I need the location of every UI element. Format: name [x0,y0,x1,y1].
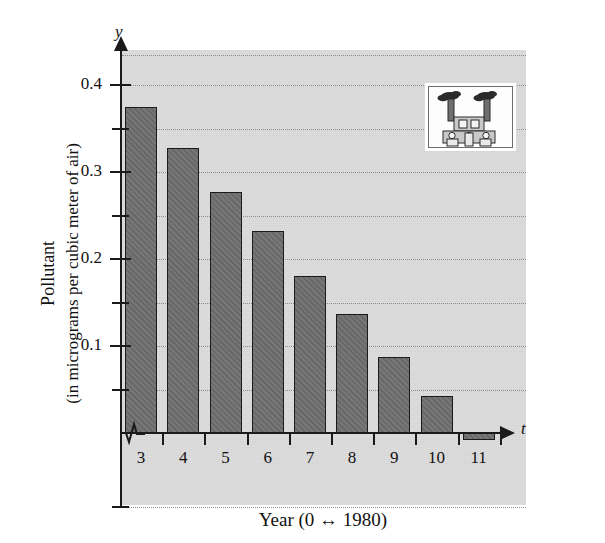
bar [125,107,157,433]
chart-figure: y t 0.10.20.30.4 34567891011 Pollutant (… [0,0,605,543]
x-tick-label: 3 [121,448,161,468]
y-tick-minor [112,215,129,217]
x-tick-label: 7 [290,448,330,468]
bar [252,231,284,433]
x-axis-line [120,432,502,434]
bar [421,396,453,433]
gridline [122,507,526,508]
y-tick-minor [112,302,129,304]
x-tick [415,434,417,445]
x-axis-title: Year (0 ↔ 1980) [120,509,526,531]
x-tick [247,434,249,445]
y-tick-major [110,171,131,173]
y-axis-variable-label: y [115,22,123,42]
x-axis-arrowhead [500,426,515,440]
x-tick [373,434,375,445]
bar [463,433,495,440]
y-axis-title-line1: Pollutant [35,58,61,488]
y-tick-minor [112,506,129,508]
x-tick [204,434,206,445]
y-tick-major [110,258,131,260]
t-axis-variable-label: t [521,419,526,439]
x-tick [500,434,502,445]
bar [378,357,410,433]
x-tick [289,434,291,445]
bar [294,276,326,433]
x-tick-label: 8 [332,448,372,468]
bar [210,192,242,433]
y-axis-title-line2: (in micrograms per cubic meter of air) [61,58,86,488]
axis-break-zigzag [120,420,146,448]
y-axis-title: Pollutant (in micrograms per cubic meter… [35,58,86,488]
x-tick-label: 11 [459,448,499,468]
gridline [122,55,526,56]
x-tick-label: 4 [163,448,203,468]
x-tick-label: 10 [417,448,457,468]
x-tick-label: 5 [206,448,246,468]
y-tick-major [110,345,131,347]
x-tick-label: 6 [248,448,288,468]
factory-icon [429,87,512,147]
y-tick-minor [112,128,129,130]
x-tick-label: 9 [374,448,414,468]
x-tick [331,434,333,445]
y-tick-minor [112,389,129,391]
y-tick-major [110,84,131,86]
x-tick [458,434,460,445]
factory-inset-box [428,86,513,148]
bar [336,314,368,433]
x-tick [162,434,164,445]
bar [167,148,199,433]
